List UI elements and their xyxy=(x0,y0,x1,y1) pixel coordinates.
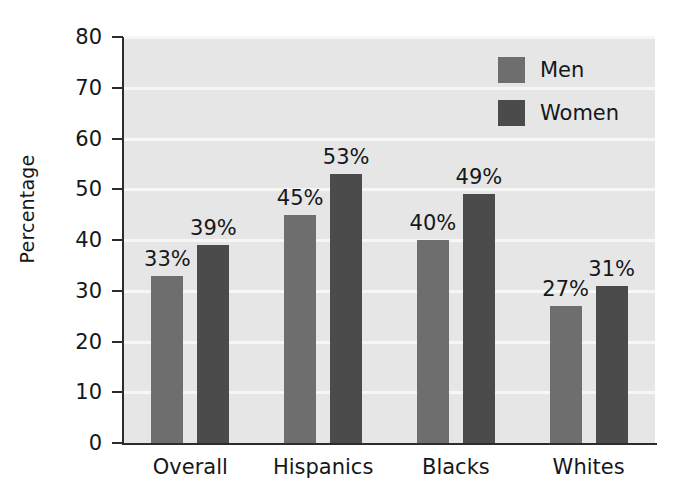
x-axis-label-whites: Whites xyxy=(553,455,625,479)
y-axis-tick-label: 30 xyxy=(46,280,102,301)
y-axis-tick-label: 10 xyxy=(46,382,102,403)
bar-whites-men xyxy=(550,306,582,443)
y-axis-tick-label: 40 xyxy=(46,230,102,251)
bar-whites-women xyxy=(596,286,628,443)
bar-hispanics-men xyxy=(284,215,316,443)
y-axis-tick-label: 70 xyxy=(46,77,102,98)
bar-value-label: 27% xyxy=(536,279,596,300)
legend-item-label: Men xyxy=(540,58,584,82)
x-axis-label-overall: Overall xyxy=(153,455,228,479)
bar-value-label: 40% xyxy=(403,213,463,234)
chart-legend: MenWomen xyxy=(498,57,619,143)
y-axis-tick-label: 80 xyxy=(46,27,102,48)
x-axis-label-blacks: Blacks xyxy=(422,455,490,479)
x-axis-label-hispanics: Hispanics xyxy=(273,455,373,479)
legend-item-men[interactable]: Men xyxy=(498,57,619,83)
bar-hispanics-women xyxy=(330,174,362,443)
bar-chart: Percentage 01020304050607080 33%39%45%53… xyxy=(0,0,683,501)
bar-value-label: 31% xyxy=(582,259,642,280)
legend-item-label: Women xyxy=(540,101,619,125)
y-axis-tick-label: 50 xyxy=(46,179,102,200)
legend-swatch-icon xyxy=(498,100,525,126)
bar-value-label: 33% xyxy=(137,249,197,270)
y-axis-tick-labels: 01020304050607080 xyxy=(46,0,102,501)
bar-overall-women xyxy=(197,245,229,443)
y-axis-tick-label: 60 xyxy=(46,128,102,149)
y-axis-title: Percentage xyxy=(16,139,38,279)
x-axis-line xyxy=(122,443,657,445)
bar-value-label: 45% xyxy=(270,188,330,209)
bar-overall-men xyxy=(151,276,183,443)
gridline xyxy=(124,36,655,39)
gridline xyxy=(124,188,655,191)
bar-blacks-women xyxy=(463,194,495,443)
y-axis-tick-label: 0 xyxy=(46,433,102,454)
bar-blacks-men xyxy=(417,240,449,443)
bar-value-label: 53% xyxy=(316,147,376,168)
bar-value-label: 39% xyxy=(183,218,243,239)
bar-value-label: 49% xyxy=(449,167,509,188)
y-axis-tick-label: 20 xyxy=(46,331,102,352)
legend-item-women[interactable]: Women xyxy=(498,100,619,126)
legend-swatch-icon xyxy=(498,57,525,83)
